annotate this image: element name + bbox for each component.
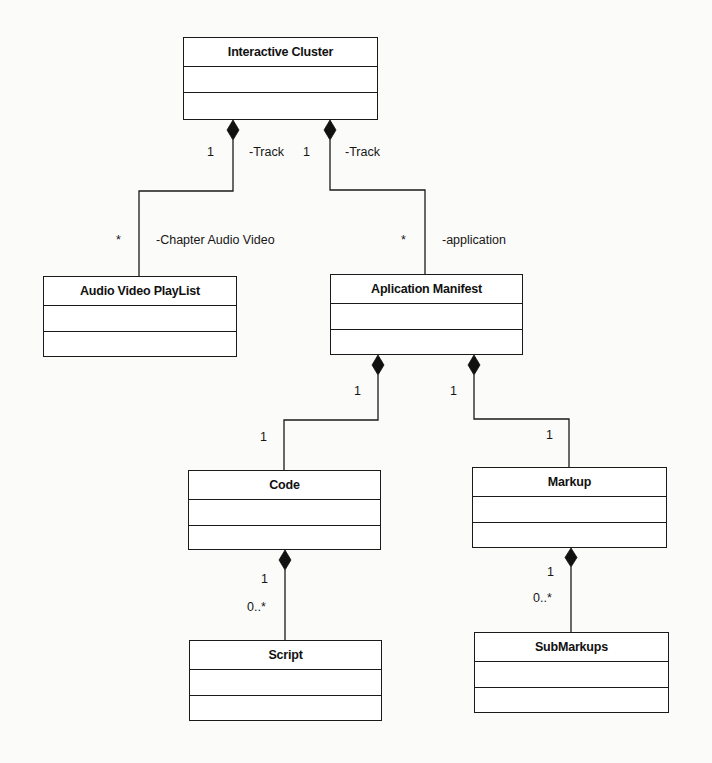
class-attributes (473, 497, 666, 523)
class-attributes (44, 306, 236, 332)
class-operations (184, 93, 377, 119)
class-script: Script (189, 640, 382, 721)
multiplicity-label: 0..* (533, 591, 552, 605)
class-name: Markup (473, 468, 666, 497)
multiplicity-label: 1 (303, 145, 310, 159)
class-name: Script (190, 641, 381, 670)
multiplicity-label: 1 (450, 384, 457, 398)
class-name: SubMarkups (475, 633, 668, 662)
class-operations (473, 523, 666, 547)
connector-am-code (284, 375, 378, 470)
class-name: Aplication Manifest (331, 275, 522, 304)
class-name: Code (189, 471, 380, 500)
multiplicity-label: 1 (207, 145, 214, 159)
multiplicity-label: 1 (547, 565, 554, 579)
multiplicity-label: 1 (354, 384, 361, 398)
multiplicity-label: * (401, 233, 406, 247)
class-attributes (331, 304, 522, 330)
class-attributes (475, 662, 668, 688)
class-aplication-manifest: Aplication Manifest (330, 274, 523, 355)
multiplicity-label: 1 (546, 428, 553, 442)
class-operations (331, 330, 522, 354)
connector-ic-avp (139, 140, 233, 276)
class-interactive-cluster: Interactive Cluster (183, 37, 378, 120)
class-submarkups: SubMarkups (474, 632, 669, 713)
class-operations (475, 688, 668, 712)
composition-diamond-icon (565, 548, 577, 567)
connector-am-markup (474, 375, 569, 467)
multiplicity-label: * (116, 233, 121, 247)
class-audio-video-playlist: Audio Video PlayList (43, 276, 237, 357)
composition-diamond-icon (468, 355, 480, 375)
role-label: -Chapter Audio Video (156, 233, 275, 247)
class-name: Interactive Cluster (184, 38, 377, 67)
class-code: Code (188, 470, 381, 550)
multiplicity-label: 1 (260, 430, 267, 444)
class-operations (190, 696, 381, 720)
class-operations (44, 332, 236, 356)
class-attributes (189, 500, 380, 526)
class-attributes (190, 670, 381, 696)
composition-diamond-icon (227, 120, 239, 140)
composition-diamond-icon (372, 355, 384, 375)
class-operations (189, 526, 380, 549)
class-attributes (184, 67, 377, 93)
composition-diamond-icon (279, 550, 291, 570)
class-name: Audio Video PlayList (44, 277, 236, 306)
composition-diamond-icon (324, 120, 336, 140)
role-label: -application (442, 233, 506, 247)
connector-ic-am (330, 140, 425, 274)
multiplicity-label: 0..* (247, 600, 266, 614)
role-label: -Track (249, 145, 284, 159)
multiplicity-label: 1 (261, 572, 268, 586)
class-markup: Markup (472, 467, 667, 548)
role-label: -Track (345, 145, 380, 159)
